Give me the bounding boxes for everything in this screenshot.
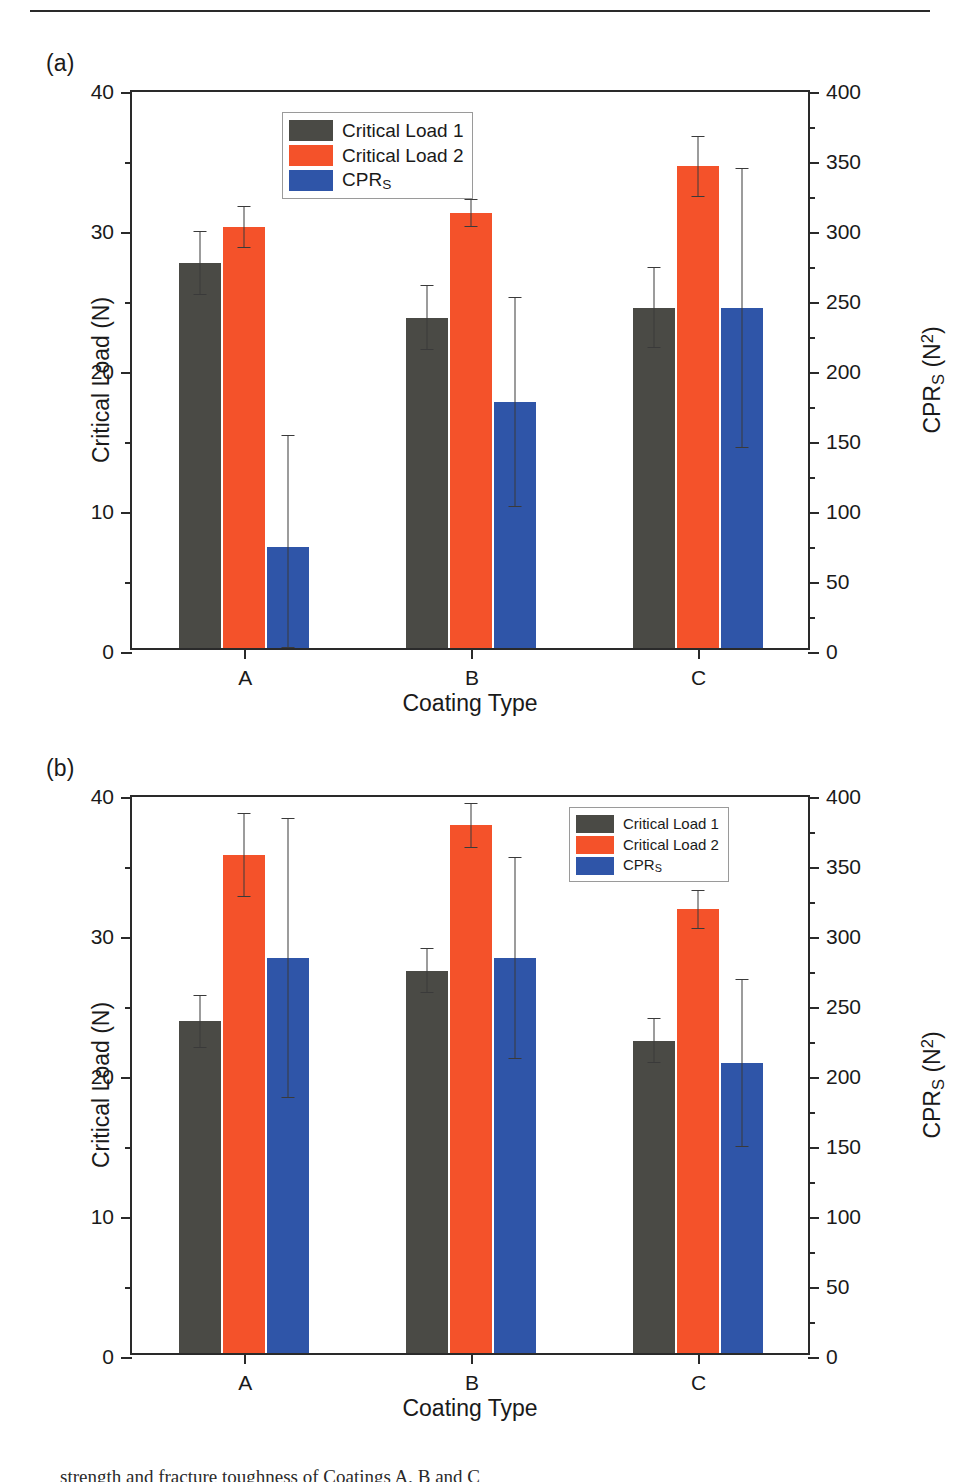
error-bar-A-series-1 xyxy=(200,995,201,1048)
x-axis-tick-C xyxy=(698,648,700,659)
right-title-sup: 2 xyxy=(918,1039,937,1048)
left-axis-tick-30 xyxy=(121,232,132,234)
right-title-unit-open: (N xyxy=(919,343,945,374)
error-bar-C-series-1 xyxy=(653,267,654,348)
right-axis-label-50: 50 xyxy=(826,570,849,594)
left-axis-tick-10 xyxy=(121,1217,132,1219)
left-axis-tick-5 xyxy=(125,1287,132,1289)
x-axis-label-A: A xyxy=(238,1371,252,1395)
right-axis-tick-150 xyxy=(808,442,819,444)
right-axis-tick-200 xyxy=(808,1077,819,1079)
right-axis-tick-275 xyxy=(808,972,815,974)
right-title-unit-open: (N xyxy=(919,1048,945,1079)
bar-A-series-1 xyxy=(179,1021,221,1353)
legend-swatch-critical-load-1 xyxy=(576,815,614,833)
right-axis-tick-400 xyxy=(808,92,819,94)
x-axis-label-C: C xyxy=(691,666,706,690)
left-axis-tick-20 xyxy=(121,372,132,374)
error-bar-C-series-2 xyxy=(697,136,698,198)
legend-cprs-prefix: CPR xyxy=(342,169,382,190)
legend-cprs-sub: S xyxy=(382,177,391,192)
left-axis-tick-5 xyxy=(125,582,132,584)
right-axis-tick-350 xyxy=(808,162,819,164)
panel-a-plot-area: Critical Load 1 Critical Load 2 CPRS 010… xyxy=(130,90,810,650)
left-axis-label-10: 10 xyxy=(91,1205,114,1229)
panel-a-legend: Critical Load 1 Critical Load 2 CPRS xyxy=(282,112,473,199)
right-axis-label-400: 400 xyxy=(826,785,861,809)
left-axis-tick-35 xyxy=(125,162,132,164)
bar-group-B xyxy=(406,797,538,1353)
panel-b-x-axis-title: Coating Type xyxy=(402,1395,537,1422)
bar-C-series-2 xyxy=(677,909,719,1353)
error-bar-B-series-3 xyxy=(515,857,516,1059)
x-axis-label-C: C xyxy=(691,1371,706,1395)
legend-item-critical-load-2: Critical Load 2 xyxy=(289,143,463,168)
right-axis-tick-50 xyxy=(808,1287,819,1289)
bar-A-series-2 xyxy=(223,855,265,1353)
right-axis-tick-175 xyxy=(808,407,815,409)
left-axis-tick-10 xyxy=(121,512,132,514)
error-bar-B-series-2 xyxy=(471,803,472,848)
right-axis-tick-75 xyxy=(808,1252,815,1254)
right-axis-label-0: 0 xyxy=(826,640,838,664)
left-axis-label-30: 30 xyxy=(91,925,114,949)
legend-label-cprs: CPRS xyxy=(623,856,662,874)
legend-item-critical-load-2: Critical Load 2 xyxy=(576,834,719,855)
x-axis-tick-A xyxy=(244,1353,246,1364)
legend-item-cprs: CPRS xyxy=(576,855,719,876)
right-title-close: ) xyxy=(919,1031,945,1039)
right-axis-label-0: 0 xyxy=(826,1345,838,1369)
left-axis-label-20: 20 xyxy=(91,1065,114,1089)
right-axis-tick-325 xyxy=(808,197,815,199)
left-axis-tick-35 xyxy=(125,867,132,869)
legend-swatch-cprs xyxy=(289,170,333,191)
right-title-prefix: CPR xyxy=(919,385,945,434)
left-axis-tick-15 xyxy=(125,442,132,444)
error-bar-B-series-1 xyxy=(427,285,428,349)
panel-a-x-axis-title: Coating Type xyxy=(402,690,537,717)
bar-C-series-1 xyxy=(633,1041,675,1353)
bar-A-series-1 xyxy=(179,263,221,648)
left-axis-tick-0 xyxy=(121,652,132,654)
right-title-close: ) xyxy=(919,326,945,334)
panel-b-right-axis-title: CPRS (N2) xyxy=(918,1031,949,1138)
error-bar-A-series-3 xyxy=(288,435,289,648)
error-bar-B-series-3 xyxy=(515,297,516,507)
panel-a: (a) Critical Load (N) CPRS (N2) Coating … xyxy=(0,30,962,730)
right-axis-tick-225 xyxy=(808,1042,815,1044)
bar-group-A xyxy=(179,797,311,1353)
legend-cprs-prefix: CPR xyxy=(623,856,655,873)
legend-label-cprs: CPRS xyxy=(342,169,391,192)
right-axis-label-300: 300 xyxy=(826,220,861,244)
left-axis-tick-40 xyxy=(121,797,132,799)
error-bar-A-series-2 xyxy=(244,813,245,897)
left-axis-label-0: 0 xyxy=(102,640,114,664)
right-axis-tick-125 xyxy=(808,477,815,479)
x-axis-tick-C xyxy=(698,1353,700,1364)
left-axis-tick-25 xyxy=(125,302,132,304)
legend-label-critical-load-2: Critical Load 2 xyxy=(623,836,719,853)
figure-top-rule xyxy=(30,10,930,12)
right-axis-label-300: 300 xyxy=(826,925,861,949)
x-axis-label-A: A xyxy=(238,666,252,690)
right-axis-tick-25 xyxy=(808,617,815,619)
error-bar-A-series-2 xyxy=(244,206,245,248)
right-axis-label-100: 100 xyxy=(826,500,861,524)
bar-group-C xyxy=(633,92,765,648)
right-axis-tick-0 xyxy=(808,1357,819,1359)
bar-B-series-1 xyxy=(406,971,448,1353)
right-axis-label-350: 350 xyxy=(826,855,861,879)
panel-b-tag: (b) xyxy=(46,755,75,782)
left-axis-tick-15 xyxy=(125,1147,132,1149)
legend-swatch-critical-load-2 xyxy=(289,145,333,166)
right-axis-tick-175 xyxy=(808,1112,815,1114)
right-axis-tick-375 xyxy=(808,832,815,834)
x-axis-label-B: B xyxy=(465,1371,479,1395)
x-axis-tick-B xyxy=(471,1353,473,1364)
error-bar-A-series-3 xyxy=(288,818,289,1098)
right-axis-label-50: 50 xyxy=(826,1275,849,1299)
left-axis-label-40: 40 xyxy=(91,80,114,104)
right-axis-tick-225 xyxy=(808,337,815,339)
right-axis-tick-150 xyxy=(808,1147,819,1149)
right-axis-tick-125 xyxy=(808,1182,815,1184)
